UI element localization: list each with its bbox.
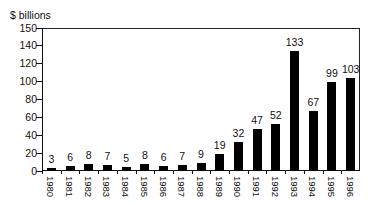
x-tick-label: 1980 bbox=[46, 176, 56, 202]
y-tick-label: 0 bbox=[31, 165, 37, 177]
bar-1993 bbox=[290, 51, 299, 171]
bar-value-label: 32 bbox=[223, 127, 253, 139]
x-tick-label: 1987 bbox=[177, 176, 187, 202]
x-tick-label: 1989 bbox=[215, 176, 225, 202]
x-tick bbox=[61, 171, 62, 174]
x-tick-label: 1991 bbox=[252, 176, 262, 202]
y-tick-label: 20 bbox=[25, 147, 37, 159]
bar-1994 bbox=[309, 111, 318, 171]
x-tick-label: 1986 bbox=[159, 176, 169, 202]
x-tick bbox=[341, 171, 342, 174]
x-tick-label: 1988 bbox=[196, 176, 206, 202]
bar-1981 bbox=[66, 166, 75, 171]
x-tick-label: 1982 bbox=[84, 176, 94, 202]
bar-1985 bbox=[140, 164, 149, 171]
x-tick bbox=[136, 171, 137, 174]
x-tick-label: 1984 bbox=[121, 176, 131, 202]
bar-1990 bbox=[234, 142, 243, 171]
bar-1989 bbox=[215, 154, 224, 171]
x-tick-label: 1981 bbox=[65, 176, 75, 202]
bar-value-label: 67 bbox=[298, 96, 328, 108]
bar-1995 bbox=[327, 82, 336, 171]
x-tick bbox=[79, 171, 80, 174]
x-tick bbox=[285, 171, 286, 174]
bar-1996 bbox=[346, 78, 355, 171]
x-tick-label: 1985 bbox=[140, 176, 150, 202]
y-tick-label: 140 bbox=[19, 39, 37, 51]
bar-1992 bbox=[271, 124, 280, 171]
x-tick bbox=[210, 171, 211, 174]
x-tick bbox=[42, 171, 43, 174]
bar-1983 bbox=[103, 165, 112, 171]
y-tick-label: 120 bbox=[19, 57, 37, 69]
x-tick bbox=[192, 171, 193, 174]
y-tick-label: 150 bbox=[19, 22, 37, 34]
bar-1987 bbox=[178, 165, 187, 171]
y-axis-unit-label: $ billions bbox=[10, 9, 51, 21]
x-tick-label: 1996 bbox=[346, 176, 356, 202]
x-tick-label: 1992 bbox=[271, 176, 281, 202]
x-tick bbox=[117, 171, 118, 174]
x-tick bbox=[304, 171, 305, 174]
x-tick bbox=[173, 171, 174, 174]
x-tick bbox=[154, 171, 155, 174]
x-tick bbox=[229, 171, 230, 174]
x-tick-label: 1994 bbox=[308, 176, 318, 202]
bar-1980 bbox=[47, 168, 56, 171]
bar-1982 bbox=[84, 164, 93, 171]
y-tick-label: 60 bbox=[25, 111, 37, 123]
x-tick bbox=[98, 171, 99, 174]
bar-1988 bbox=[197, 163, 206, 171]
x-tick bbox=[323, 171, 324, 174]
bar-value-label: 52 bbox=[261, 109, 291, 121]
x-tick-label: 1983 bbox=[102, 176, 112, 202]
x-tick bbox=[248, 171, 249, 174]
bar-1984 bbox=[122, 167, 131, 172]
bar-1986 bbox=[159, 166, 168, 171]
bar-value-label: 19 bbox=[205, 139, 235, 151]
y-tick-label: 80 bbox=[25, 93, 37, 105]
x-tick-label: 1995 bbox=[327, 176, 337, 202]
bar-value-label: 133 bbox=[280, 36, 310, 48]
bar-1991 bbox=[253, 129, 262, 171]
x-tick-label: 1990 bbox=[233, 176, 243, 202]
y-tick-label: 100 bbox=[19, 75, 37, 87]
x-tick-label: 1993 bbox=[290, 176, 300, 202]
bar-value-label: 103 bbox=[336, 63, 366, 75]
y-tick-label: 40 bbox=[25, 129, 37, 141]
x-tick bbox=[266, 171, 267, 174]
